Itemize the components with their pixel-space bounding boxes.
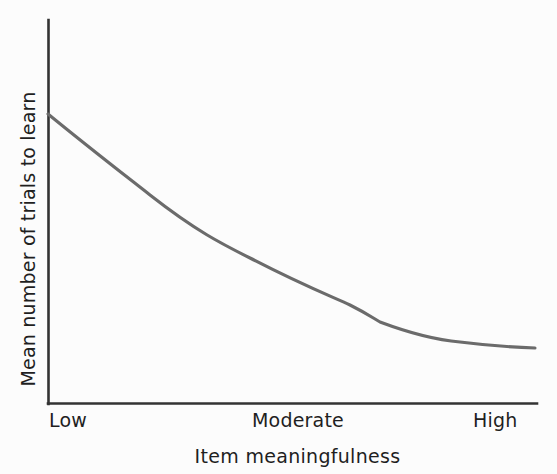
x-tick-label-moderate: Moderate [252, 411, 344, 430]
chart-figure: Low Moderate High Item meaningfulness Me… [0, 0, 557, 474]
y-axis-title: Mean number of trials to learn [13, 79, 43, 399]
plot-area [0, 0, 557, 474]
x-tick-label-low: Low [49, 411, 87, 430]
data-curve-mean-trials [48, 114, 535, 348]
x-axis-title: Item meaningfulness [0, 447, 557, 466]
x-tick-label-high: High [473, 411, 517, 430]
